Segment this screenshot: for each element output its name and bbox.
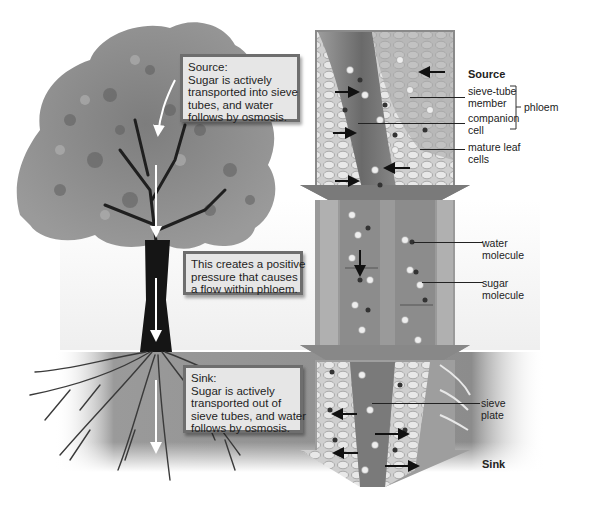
- source-callout-line: transported into sieve: [188, 86, 292, 99]
- sink-callout-line: transported out of: [191, 397, 295, 410]
- leader-line: [358, 123, 465, 124]
- pressure-callout-line: a flow within phloem.: [191, 283, 295, 296]
- label-line: cells: [468, 153, 521, 165]
- source-heading: Source: [468, 68, 505, 80]
- label-line: plate: [481, 409, 506, 421]
- leader-line: [410, 97, 465, 98]
- sink-callout-line: Sink:: [191, 372, 295, 385]
- pressure-callout-line: pressure that causes: [191, 271, 295, 284]
- source-callout: Source: Sugar is actively transported in…: [180, 54, 300, 122]
- leader-line: [422, 282, 483, 283]
- source-callout-line: follows by osmosis.: [188, 111, 292, 124]
- label-line: water: [482, 237, 524, 249]
- sink-callout-line: follows by osmosis.: [191, 422, 295, 435]
- sink-callout-line: sieve tubes, and water: [191, 410, 295, 423]
- source-callout-line: Source:: [188, 61, 292, 74]
- phloem-label: phloem: [524, 101, 558, 113]
- pressure-callout-line: This creates a positive: [191, 258, 295, 271]
- sieve-plate-label: sieve plate: [481, 397, 506, 421]
- label-line: mature leaf: [468, 141, 521, 153]
- label-line: molecule: [482, 289, 524, 301]
- pressure-callout: This creates a positive pressure that ca…: [183, 251, 303, 295]
- leader-line: [420, 149, 465, 150]
- sugar-molecule-label: sugar molecule: [482, 277, 524, 301]
- label-line: companion: [468, 112, 519, 124]
- source-callout-line: Sugar is actively: [188, 74, 292, 87]
- sink-heading: Sink: [482, 458, 505, 470]
- leader-line: [372, 403, 480, 404]
- label-line: cell: [468, 124, 519, 136]
- sieve-tube-member-label: sieve-tube member: [468, 85, 516, 109]
- sink-callout-line: Sugar is actively: [191, 385, 295, 398]
- label-line: sugar: [482, 277, 524, 289]
- label-line: member: [468, 97, 516, 109]
- label-line: sieve-tube: [468, 85, 516, 97]
- leader-line: [413, 242, 483, 243]
- sink-callout: Sink: Sugar is actively transported out …: [183, 365, 303, 433]
- water-molecule-label: water molecule: [482, 237, 524, 261]
- label-line: molecule: [482, 249, 524, 261]
- mature-leaf-cells-label: mature leaf cells: [468, 141, 521, 165]
- source-callout-line: tubes, and water: [188, 99, 292, 112]
- label-line: sieve: [481, 397, 506, 409]
- companion-cell-label: companion cell: [468, 112, 519, 136]
